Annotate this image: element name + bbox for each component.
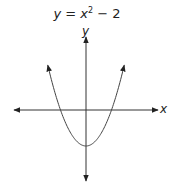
plot-area bbox=[0, 0, 174, 195]
